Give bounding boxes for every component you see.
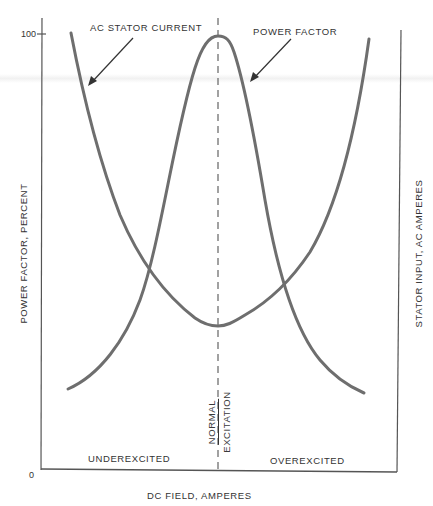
- power-factor-label: POWER FACTOR: [253, 26, 337, 37]
- tick-label-0: 0: [29, 470, 34, 480]
- tick-label-100: 100: [21, 29, 36, 39]
- ac-stator-current-label: AC STATOR CURRENT: [90, 22, 202, 33]
- underexcited-label: UNDEREXCITED: [88, 453, 170, 464]
- y-axis-right-label: STATOR INPUT, AC AMPERES: [413, 174, 424, 334]
- ac-stator-current-arrow: [92, 38, 133, 82]
- normal-excitation-label: NORMAL EXCITATION: [197, 400, 241, 444]
- overexcited-label: OVEREXCITED: [270, 455, 345, 466]
- x-axis: [41, 469, 397, 472]
- excitation-label: EXCITATION: [219, 391, 232, 453]
- ac-stator-current-curve: [71, 33, 369, 326]
- power-factor-arrow: [254, 39, 291, 78]
- x-axis-label: DC FIELD, AMPERES: [147, 490, 252, 501]
- y-axis-left-label: POWER FACTOR, PERCENT: [18, 179, 29, 329]
- right-axis: [397, 30, 401, 472]
- power-factor-curve: [68, 36, 364, 393]
- left-axis: [41, 18, 42, 470]
- normal-label: NORMAL: [206, 399, 219, 445]
